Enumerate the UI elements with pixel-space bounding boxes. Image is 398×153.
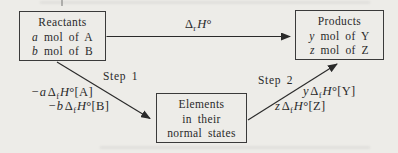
enthalpy-symbol: H: [323, 84, 332, 98]
formation-term-Y: yΔfH°[Y]: [303, 85, 355, 98]
term-Y-coefficient: y: [303, 84, 309, 98]
reactants-title: Reactants: [20, 15, 105, 30]
reactants-box: Reactants a mol of A b mol of B: [19, 11, 106, 61]
hess-cycle-diagram: Reactants a mol of A b mol of B Products…: [0, 0, 398, 153]
delta-subscript-f: f: [319, 90, 322, 100]
enthalpy-symbol: H: [60, 85, 69, 99]
elements-line-2: in their: [157, 112, 246, 127]
delta-symbol: Δ: [65, 99, 73, 113]
delta-subscript-r: r: [193, 23, 196, 33]
term-A-coefficient: −a: [31, 85, 46, 99]
delta-subscript-f: f: [73, 105, 76, 115]
delta-symbol: Δ: [310, 84, 318, 98]
reactants-line-b: b mol of B: [20, 44, 105, 59]
term-Y-species: °[Y]: [332, 84, 356, 98]
term-B-species: °[B]: [86, 99, 109, 113]
delta-symbol: Δ: [282, 99, 290, 113]
enthalpy-symbol: H: [294, 99, 303, 113]
formation-term-B: −bΔfH°[B]: [48, 100, 109, 113]
elements-box: Elements in their normal states: [156, 93, 247, 143]
delta-symbol: Δ: [48, 85, 56, 99]
elements-line-1: Elements: [157, 97, 246, 112]
products-line-z: z mol of Z: [296, 43, 383, 58]
products-line-y-text: mol of Y: [315, 30, 370, 42]
degree-symbol: °: [207, 17, 212, 31]
reactants-line-a-text: mol of A: [38, 31, 93, 43]
enthalpy-symbol: H: [197, 17, 206, 31]
products-line-z-text: mol of Z: [315, 44, 369, 56]
term-Z-coefficient: z: [275, 99, 280, 113]
formation-term-Z: zΔfH°[Z]: [275, 100, 325, 113]
term-A-species: °[A]: [69, 85, 93, 99]
reactants-line-b-text: mol of B: [38, 45, 93, 57]
formation-term-A: −aΔfH°[A]: [31, 86, 93, 99]
products-title: Products: [296, 14, 383, 29]
enthalpy-symbol: H: [77, 99, 86, 113]
delta-subscript-f: f: [290, 105, 293, 115]
products-line-y: y mol of Y: [296, 29, 383, 44]
term-Z-species: °[Z]: [303, 99, 325, 113]
step2-label: Step 2: [258, 74, 293, 86]
elements-line-3: normal states: [157, 126, 246, 141]
reaction-enthalpy-label: ΔrH°: [185, 18, 212, 31]
reactants-line-a: a mol of A: [20, 30, 105, 45]
step1-label: Step 1: [103, 70, 138, 82]
term-B-coefficient: −b: [48, 99, 63, 113]
products-box: Products y mol of Y z mol of Z: [295, 10, 384, 60]
